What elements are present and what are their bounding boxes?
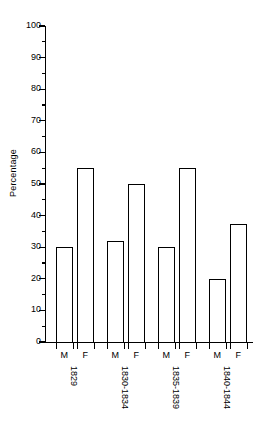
x-tick	[209, 343, 210, 349]
x-tick	[158, 343, 159, 349]
x-tick	[77, 343, 78, 349]
bar-1840-1844-F	[230, 224, 247, 343]
x-tick-label-1829-F: F	[77, 350, 93, 360]
x-tick	[56, 343, 57, 349]
y-tick-label: 60	[18, 147, 41, 156]
x-tick-label-1830-1834-M: M	[107, 350, 123, 360]
y-tick-minor	[42, 262, 46, 263]
y-tick-label-text: 0	[19, 337, 41, 346]
y-tick-label-text: 70	[19, 116, 41, 125]
bar-1830-1834-F	[128, 184, 145, 342]
bar-chart-figure: Percentage 1009080706050403020100 MFMFMF…	[0, 0, 273, 430]
y-tick-minor	[42, 294, 46, 295]
x-tick	[196, 343, 197, 349]
x-tick	[73, 343, 74, 349]
y-tick-minor	[42, 326, 46, 327]
y-tick-label: 20	[18, 274, 41, 283]
bar-1835-1839-M	[158, 247, 175, 342]
x-tick-label-1835-1839-F: F	[179, 350, 195, 360]
y-tick-label: 80	[18, 84, 41, 93]
bar-1835-1839-F	[179, 168, 196, 342]
bar-1829-F	[77, 168, 94, 342]
y-tick-label: 0	[18, 337, 41, 346]
y-axis-title: Percentage	[8, 133, 18, 213]
y-tick-label-text: 40	[19, 211, 41, 220]
x-tick	[247, 343, 248, 349]
x-tick-label-1830-1834-F: F	[128, 350, 144, 360]
x-tick	[145, 343, 146, 349]
x-tick	[94, 343, 95, 349]
x-tick	[226, 343, 227, 349]
group-label-1830-1834: 1830-1834	[120, 366, 130, 430]
x-tick-label-1829-M: M	[56, 350, 72, 360]
x-tick	[230, 343, 231, 349]
y-tick-label: 90	[18, 53, 41, 62]
y-tick-minor	[42, 41, 46, 42]
y-tick-label-text: 60	[19, 147, 41, 156]
x-tick-label-1840-1844-F: F	[230, 350, 246, 360]
y-tick-minor	[42, 136, 46, 137]
y-tick-label-text: 80	[19, 84, 41, 93]
y-tick-minor	[42, 231, 46, 232]
y-tick-minor	[42, 104, 46, 105]
y-tick-label-text: 100	[19, 21, 41, 30]
group-label-1835-1839: 1835-1839	[171, 366, 181, 430]
x-tick	[128, 343, 129, 349]
group-label-1829: 1829	[69, 366, 79, 430]
y-axis-line	[45, 26, 46, 343]
x-tick	[107, 343, 108, 349]
x-tick-label-1835-1839-M: M	[158, 350, 174, 360]
y-tick-label: 30	[18, 242, 41, 251]
y-tick-label-text: 90	[19, 53, 41, 62]
bar-1829-M	[56, 247, 73, 342]
x-tick	[179, 343, 180, 349]
y-tick-label-text: 10	[19, 305, 41, 314]
y-tick-label: 10	[18, 305, 41, 314]
bar-1830-1834-M	[107, 241, 124, 342]
y-tick-label-text: 30	[19, 242, 41, 251]
x-tick	[124, 343, 125, 349]
group-label-1840-1844: 1840-1844	[222, 366, 232, 430]
y-tick-label: 50	[18, 179, 41, 188]
bar-1840-1844-M	[209, 279, 226, 342]
y-tick-minor	[42, 199, 46, 200]
y-tick-label: 70	[18, 116, 41, 125]
y-tick-label: 100	[18, 21, 41, 30]
y-tick-minor	[42, 168, 46, 169]
x-tick-label-1840-1844-M: M	[209, 350, 225, 360]
y-tick-label-text: 50	[19, 179, 41, 188]
x-tick	[175, 343, 176, 349]
y-tick-label: 40	[18, 211, 41, 220]
y-tick-minor	[42, 73, 46, 74]
y-tick-label-text: 20	[19, 274, 41, 283]
